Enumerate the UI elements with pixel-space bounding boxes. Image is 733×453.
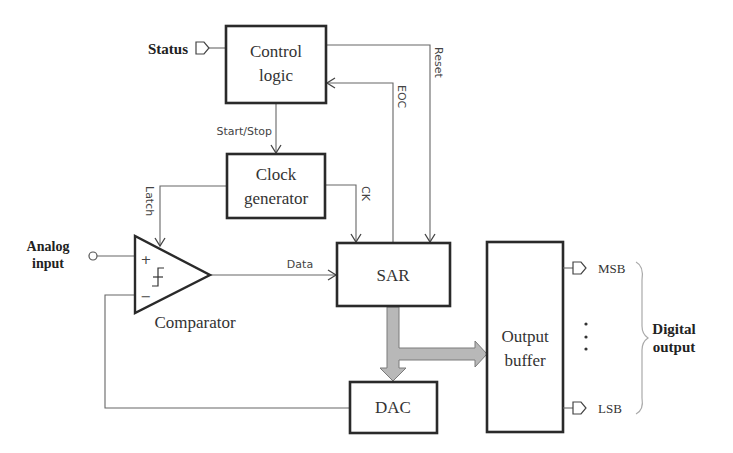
digital-output-label-1: Digital — [652, 321, 695, 337]
start-stop-wire — [271, 103, 281, 153]
clock-generator-block: Clock generator — [227, 154, 325, 218]
ck-wire — [325, 185, 361, 242]
dac-block: DAC — [350, 382, 437, 433]
msb-label: MSB — [598, 261, 626, 276]
sar-label: SAR — [376, 266, 410, 285]
status-label: Status — [148, 41, 188, 57]
comparator-plus-sign: + — [141, 252, 152, 267]
status-port — [196, 42, 226, 54]
digital-output-label-2: output — [653, 339, 696, 355]
latch-label: Latch — [143, 186, 156, 216]
digital-output-brace — [636, 262, 648, 414]
dac-feedback-wire — [105, 295, 350, 408]
output-buffer-block: Output buffer — [487, 242, 563, 432]
data-label: Data — [287, 258, 313, 271]
clock-generator-label-2: generator — [244, 189, 309, 208]
ck-label: CK — [359, 186, 372, 202]
data-bus-arrow — [380, 307, 487, 381]
analog-input-label-1: Analog — [27, 239, 70, 254]
data-wire — [210, 270, 336, 280]
reset-label: Reset — [432, 47, 445, 78]
control-logic-block: Control logic — [226, 26, 326, 103]
clock-generator-label-1: Clock — [256, 165, 297, 184]
comparator-label: Comparator — [154, 313, 236, 332]
lsb-port — [563, 402, 586, 414]
output-buffer-label-1: Output — [501, 327, 549, 346]
analog-input-port — [89, 252, 135, 260]
ellipsis-dots — [584, 322, 587, 350]
start-stop-label: Start/Stop — [216, 125, 272, 138]
sar-block: SAR — [337, 243, 450, 306]
comparator-minus-sign: − — [141, 289, 152, 304]
latch-wire — [155, 186, 227, 246]
adc-block-diagram: Status Start/Stop Reset EOC CK Latch Ana… — [0, 0, 733, 453]
control-logic-label-1: Control — [250, 42, 302, 61]
comparator-block: + − Comparator — [135, 236, 236, 332]
lsb-label: LSB — [598, 401, 622, 416]
control-logic-label-2: logic — [259, 66, 293, 85]
output-buffer-label-2: buffer — [504, 351, 546, 370]
eoc-label: EOC — [395, 85, 408, 109]
analog-input-label-2: input — [32, 256, 64, 271]
eoc-wire — [327, 78, 393, 243]
reset-wire — [326, 45, 435, 242]
msb-port — [563, 262, 586, 274]
dac-label: DAC — [375, 398, 411, 417]
